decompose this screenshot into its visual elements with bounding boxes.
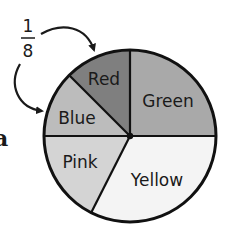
pie-chart: Red Green Blue Pink Yellow 1 8 a xyxy=(0,0,227,246)
arrow-to-blue-icon xyxy=(15,64,42,111)
cropped-edge-text: a xyxy=(0,125,8,151)
label-red: Red xyxy=(88,69,120,89)
label-yellow: Yellow xyxy=(130,170,183,190)
arrow-to-red-icon xyxy=(41,27,94,50)
fraction-numerator: 1 xyxy=(23,16,34,36)
label-pink: Pink xyxy=(62,152,97,172)
label-blue: Blue xyxy=(58,108,96,128)
fraction-denominator: 8 xyxy=(23,41,34,61)
label-green: Green xyxy=(142,91,193,111)
center-dot xyxy=(127,133,133,139)
